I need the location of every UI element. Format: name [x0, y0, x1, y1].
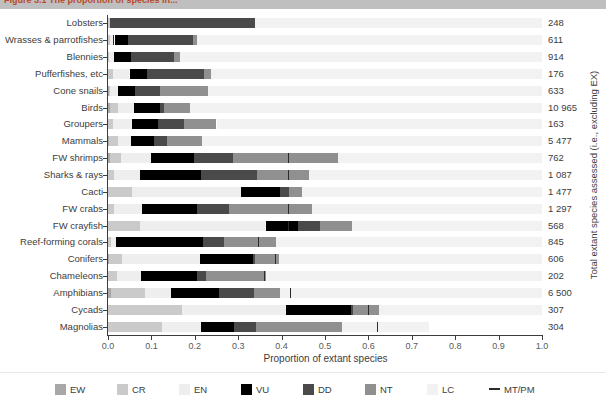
bar-segment-nt[interactable]: [164, 103, 190, 113]
legend-item-mt-pm[interactable]: MT/PM: [489, 384, 551, 395]
bar-segment-vu[interactable]: [131, 136, 155, 146]
bar-segment-nt[interactable]: [233, 153, 337, 163]
bar-row[interactable]: [108, 237, 542, 247]
bar-segment-cr[interactable]: [111, 288, 146, 298]
bar-segment-nt[interactable]: [167, 136, 202, 146]
bar-segment-cr[interactable]: [108, 305, 182, 315]
bar-segment-en[interactable]: [113, 119, 132, 129]
bar-segment-dd[interactable]: [234, 322, 256, 332]
bar-segment-nt[interactable]: [320, 221, 353, 231]
bar-segment-lc[interactable]: [342, 322, 429, 332]
legend-item-dd[interactable]: DD: [303, 384, 365, 395]
bar-segment-en[interactable]: [132, 187, 241, 197]
bar-segment-nt[interactable]: [204, 69, 211, 79]
bar-segment-lc[interactable]: [276, 237, 542, 247]
bar-segment-vu[interactable]: [134, 103, 160, 113]
bar-segment-lc[interactable]: [280, 288, 542, 298]
bar-segment-dd[interactable]: [194, 153, 233, 163]
bar-segment-vu[interactable]: [116, 237, 203, 247]
bar-segment-nt[interactable]: [289, 187, 302, 197]
bar-row[interactable]: [108, 305, 542, 315]
bar-segment-lc[interactable]: [202, 136, 542, 146]
bar-segment-dd[interactable]: [154, 136, 167, 146]
bar-segment-en[interactable]: [121, 153, 151, 163]
legend-item-ew[interactable]: EW: [55, 384, 117, 395]
bar-segment-en[interactable]: [117, 271, 141, 281]
bar-segment-lc[interactable]: [302, 187, 542, 197]
bar-segment-en[interactable]: [114, 204, 142, 214]
bar-segment-dd[interactable]: [158, 119, 184, 129]
bar-segment-lc[interactable]: [217, 119, 543, 129]
bar-segment-nt[interactable]: [229, 204, 311, 214]
bar-segment-lc[interactable]: [279, 254, 542, 264]
bar-row[interactable]: [108, 35, 542, 45]
bar-segment-cr[interactable]: [110, 153, 121, 163]
bar-segment-lc[interactable]: [180, 52, 542, 62]
bar-row[interactable]: [108, 271, 542, 281]
bar-segment-cr[interactable]: [109, 136, 117, 146]
bar-row[interactable]: [108, 136, 542, 146]
bar-row[interactable]: [108, 204, 542, 214]
bar-segment-cr[interactable]: [108, 271, 117, 281]
bar-segment-vu[interactable]: [140, 170, 201, 180]
bar-row[interactable]: [108, 69, 542, 79]
bar-segment-dd[interactable]: [131, 52, 174, 62]
bar-segment-vu[interactable]: [286, 305, 351, 315]
bar-segment-lc[interactable]: [352, 221, 542, 231]
bar-segment-en[interactable]: [113, 69, 130, 79]
bar-segment-en[interactable]: [118, 103, 134, 113]
bar-segment-dd[interactable]: [280, 187, 289, 197]
bar-segment-nt[interactable]: [206, 271, 267, 281]
bar-row[interactable]: [108, 254, 542, 264]
bar-row[interactable]: [108, 170, 542, 180]
bar-segment-nt[interactable]: [256, 322, 343, 332]
bar-row[interactable]: [108, 52, 542, 62]
bar-row[interactable]: [108, 18, 542, 28]
bar-segment-lc[interactable]: [190, 103, 542, 113]
bar-segment-en[interactable]: [182, 305, 286, 315]
bar-segment-lc[interactable]: [312, 204, 542, 214]
bar-segment-en[interactable]: [118, 136, 131, 146]
bar-segment-dd[interactable]: [128, 35, 193, 45]
bar-segment-vu[interactable]: [241, 187, 280, 197]
bar-segment-dd[interactable]: [219, 288, 254, 298]
bar-segment-cr[interactable]: [108, 221, 140, 231]
legend-item-cr[interactable]: CR: [117, 384, 179, 395]
bar-segment-lc[interactable]: [255, 18, 542, 28]
bar-segment-nt[interactable]: [224, 237, 276, 247]
bar-segment-vu[interactable]: [114, 52, 131, 62]
bar-segment-vu[interactable]: [141, 271, 197, 281]
bar-segment-dd[interactable]: [203, 237, 225, 247]
bar-row[interactable]: [108, 187, 542, 197]
bar-segment-nt[interactable]: [353, 305, 379, 315]
bar-segment-en[interactable]: [145, 288, 171, 298]
legend-item-en[interactable]: EN: [179, 384, 241, 395]
bar-segment-lc[interactable]: [309, 170, 542, 180]
bar-segment-dd[interactable]: [147, 69, 203, 79]
bar-segment-en[interactable]: [114, 170, 140, 180]
bar-row[interactable]: [108, 153, 542, 163]
bar-segment-vu[interactable]: [201, 322, 234, 332]
bar-segment-dd[interactable]: [110, 18, 255, 28]
bar-row[interactable]: [108, 103, 542, 113]
bar-segment-nt[interactable]: [257, 170, 309, 180]
bar-segment-cr[interactable]: [109, 254, 122, 264]
bar-row[interactable]: [108, 322, 542, 332]
bar-segment-vu[interactable]: [118, 86, 135, 96]
legend-item-nt[interactable]: NT: [365, 384, 427, 395]
bar-segment-en[interactable]: [140, 221, 266, 231]
bar-segment-en[interactable]: [162, 322, 201, 332]
bar-segment-nt[interactable]: [254, 288, 280, 298]
bar-segment-lc[interactable]: [379, 305, 542, 315]
bar-segment-vu[interactable]: [142, 204, 196, 214]
bar-row[interactable]: [108, 119, 542, 129]
bar-segment-vu[interactable]: [130, 69, 147, 79]
bar-segment-en[interactable]: [110, 86, 117, 96]
bar-segment-lc[interactable]: [266, 271, 542, 281]
bar-row[interactable]: [108, 288, 542, 298]
bar-segment-vu[interactable]: [132, 119, 158, 129]
bar-segment-en[interactable]: [122, 254, 200, 264]
bar-segment-dd[interactable]: [197, 271, 206, 281]
bar-segment-dd[interactable]: [197, 204, 230, 214]
bar-segment-cr[interactable]: [108, 187, 132, 197]
